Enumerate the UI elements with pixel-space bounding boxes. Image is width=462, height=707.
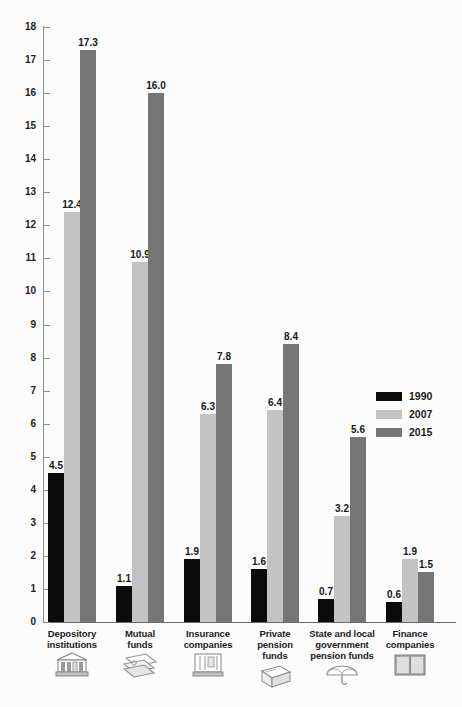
bar-value-label: 0.7	[319, 587, 333, 597]
y-axis-tick-label: 1	[10, 584, 36, 594]
x-axis-category-3: Insurancecompanies	[170, 628, 246, 680]
bar-2007: 1.9	[402, 559, 418, 622]
bar-value-label: 4.5	[49, 461, 63, 471]
category-label-line: Finance	[372, 628, 448, 639]
y-axis-tick-label: 2	[10, 551, 36, 561]
legend-item-2007: 2007	[376, 407, 432, 422]
y-axis-tick-label: 5	[10, 452, 36, 462]
y-axis-tick-label: 15	[10, 121, 36, 131]
legend-swatch	[376, 428, 402, 437]
legend-item-1990: 1990	[376, 389, 432, 404]
legend-swatch	[376, 410, 402, 419]
bar-2007: 10.9	[132, 262, 148, 622]
x-axis-category-2: Mutualfunds	[105, 628, 175, 680]
y-axis-tick-label: 16	[10, 88, 36, 98]
bar-group: 1.110.916.0	[116, 27, 164, 622]
legend-label: 2007	[409, 409, 432, 420]
y-axis-tick-label: 17	[10, 55, 36, 65]
bar-value-label: 0.6	[387, 590, 401, 600]
bank-building-icon	[30, 652, 114, 680]
bar-2015: 5.6	[350, 437, 366, 622]
bar-value-label: 6.3	[201, 402, 215, 412]
category-label-line: funds	[105, 639, 175, 650]
open-book-icon	[372, 652, 448, 680]
bar-value-label: 5.6	[351, 425, 365, 435]
y-axis-tick-label: 4	[10, 485, 36, 495]
bar-value-label: 6.4	[268, 398, 282, 408]
y-axis-tick-label: 10	[10, 286, 36, 296]
legend-label: 1990	[409, 391, 432, 402]
bar-1990: 4.5	[48, 473, 64, 622]
bar-group: 1.66.48.4	[251, 27, 299, 622]
category-label-line: Depository	[30, 628, 114, 639]
document-stack-icon	[170, 652, 246, 680]
open-folder-icon	[105, 652, 175, 680]
x-axis-category-1: Depositoryinstitutions	[30, 628, 114, 680]
y-axis-tick-label: 13	[10, 187, 36, 197]
bar-group: 0.61.91.5	[386, 27, 434, 622]
bar-value-label: 1.6	[252, 557, 266, 567]
bar-2007: 6.4	[267, 410, 283, 622]
bar-value-label: 10.9	[130, 250, 149, 260]
y-axis-tick-label: 3	[10, 518, 36, 528]
bar-1990: 0.7	[318, 599, 334, 622]
category-label-line: Mutual	[105, 628, 175, 639]
legend-label: 2015	[409, 427, 432, 438]
y-axis-tick-label: 18	[10, 22, 36, 32]
legend-item-2015: 2015	[376, 425, 432, 440]
y-axis-tick-label: 12	[10, 220, 36, 230]
y-axis-tick-label: 11	[10, 253, 36, 263]
y-axis-tick-label: 6	[10, 419, 36, 429]
bar-1990: 0.6	[386, 602, 402, 622]
category-label-line: companies	[372, 639, 448, 650]
chart-legend: 199020072015	[376, 389, 432, 443]
y-axis-tick-label: 8	[10, 353, 36, 363]
bar-value-label: 16.0	[146, 81, 165, 91]
bar-value-label: 8.4	[284, 332, 298, 342]
bar-value-label: 1.5	[419, 560, 433, 570]
bar-2015: 8.4	[283, 344, 299, 622]
category-label-line: Insurance	[170, 628, 246, 639]
y-axis-tick-label: 7	[10, 386, 36, 396]
legend-swatch	[376, 392, 402, 401]
plot-area: 4.512.417.31.110.916.01.96.37.81.66.48.4…	[44, 27, 456, 622]
y-axis-tick-label: 9	[10, 320, 36, 330]
bar-group: 0.73.25.6	[318, 27, 366, 622]
bar-2015: 1.5	[418, 572, 434, 622]
bar-chart: 0123456789101112131415161718 4.512.417.3…	[0, 0, 462, 707]
bar-2007: 12.4	[64, 212, 80, 622]
bar-value-label: 7.8	[217, 352, 231, 362]
y-axis-tick	[44, 622, 50, 623]
x-axis-line	[43, 622, 456, 623]
category-label-line: institutions	[30, 639, 114, 650]
bar-value-label: 1.9	[185, 547, 199, 557]
bar-value-label: 3.2	[335, 504, 349, 514]
y-axis-tick-label: 0	[10, 617, 36, 627]
bar-2015: 16.0	[148, 93, 164, 622]
y-axis-tick-label: 14	[10, 154, 36, 164]
bar-value-label: 1.9	[403, 547, 417, 557]
bar-2007: 6.3	[200, 414, 216, 622]
bar-group: 1.96.37.8	[184, 27, 232, 622]
bar-2007: 3.2	[334, 516, 350, 622]
bar-value-label: 17.3	[78, 38, 97, 48]
bar-2015: 7.8	[216, 364, 232, 622]
bar-1990: 1.1	[116, 586, 132, 622]
category-label-line: companies	[170, 639, 246, 650]
bar-value-label: 1.1	[117, 574, 131, 584]
bar-value-label: 12.4	[62, 200, 81, 210]
bar-1990: 1.9	[184, 559, 200, 622]
bar-2015: 17.3	[80, 50, 96, 622]
bar-1990: 1.6	[251, 569, 267, 622]
bar-group: 4.512.417.3	[48, 27, 96, 622]
x-axis-category-6: Financecompanies	[372, 628, 448, 680]
